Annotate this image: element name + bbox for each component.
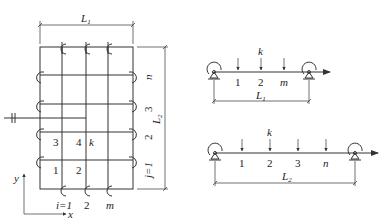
svg-text:L2: L2 (150, 114, 164, 125)
point-load-arrows (238, 58, 284, 70)
svg-text:4: 4 (76, 136, 82, 148)
svg-text:k: k (267, 126, 273, 138)
svg-text:2: 2 (76, 164, 82, 176)
svg-text:2: 2 (267, 157, 273, 169)
svg-text:L2: L2 (281, 170, 292, 184)
beam-1: k 1 2 m L1 (207, 45, 330, 104)
svg-text:1: 1 (239, 157, 245, 169)
point-load-arrows (242, 139, 326, 151)
svg-text:2: 2 (258, 76, 264, 88)
svg-text:k: k (89, 136, 95, 148)
column-labels: i=1 2 m (56, 199, 114, 211)
svg-text:3: 3 (295, 157, 301, 169)
row-labels: n 3 2 j=1 (142, 74, 154, 180)
svg-text:2: 2 (142, 135, 154, 141)
section-cut-line (4, 113, 86, 123)
svg-text:j=1: j=1 (142, 162, 154, 180)
svg-text:m: m (280, 76, 288, 88)
svg-text:n: n (323, 157, 329, 169)
svg-text:n: n (142, 74, 154, 80)
svg-text:1: 1 (53, 164, 59, 176)
svg-text:L1: L1 (255, 89, 266, 103)
svg-text:3: 3 (142, 106, 154, 112)
svg-text:1: 1 (235, 76, 241, 88)
diagram-canvas: L1 L2 n 3 2 j=1 3 4 k 1 2 i=1 2 m y x (0, 0, 387, 223)
right-pin-support-icon (302, 62, 316, 79)
svg-text:2: 2 (84, 199, 90, 211)
svg-text:m: m (106, 199, 114, 211)
grid-dimension-l1: L1 (38, 12, 135, 44)
top-moment-icons (61, 42, 112, 54)
cell-labels: 3 4 k 1 2 (53, 136, 95, 176)
left-pin-support-icon (208, 143, 222, 160)
beam-2: k 1 2 3 n L2 (208, 126, 378, 186)
right-pin-support-icon (348, 143, 362, 160)
svg-text:3: 3 (53, 136, 59, 148)
svg-text:k: k (258, 45, 264, 57)
svg-text:y: y (13, 172, 19, 184)
svg-text:x: x (67, 208, 73, 220)
svg-text:L1: L1 (80, 12, 91, 26)
bottom-moment-icons (61, 186, 112, 196)
left-pin-support-icon (207, 62, 221, 79)
